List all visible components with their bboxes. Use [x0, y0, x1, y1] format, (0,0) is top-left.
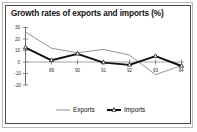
y-tick-label-minus20: -20 — [14, 83, 21, 88]
x-tick-label-89: 89 — [49, 68, 55, 73]
y-tick-label-30: 30 — [15, 25, 21, 30]
chart-figure: Growth rates of exports and imports (%) … — [0, 0, 197, 132]
legend-label-exports: Exports — [73, 106, 95, 114]
x-tick-label-91: 91 — [101, 68, 107, 73]
plot-area-wrapper: Growth rates of exports and imports (%) … — [0, 0, 197, 132]
series-markers-imports — [23, 45, 183, 67]
legend-marker-imports — [112, 108, 116, 112]
y-tick-label-0: 0 — [17, 60, 20, 65]
x-tick-label-93: 93 — [153, 68, 159, 73]
y-tick-label-10: 10 — [15, 48, 21, 53]
y-tick-label-minus10: -10 — [14, 71, 21, 76]
chart-canvas: 30 20 10 0 -10 -20 89 90 91 92 93 9 — [0, 0, 197, 132]
legend-label-imports: Imports — [124, 106, 145, 114]
x-tick-label-92: 92 — [127, 68, 133, 73]
y-tick-label-20: 20 — [15, 37, 21, 42]
x-tick-label-94: 94 — [178, 68, 184, 73]
x-tick-label-90: 90 — [75, 68, 81, 73]
